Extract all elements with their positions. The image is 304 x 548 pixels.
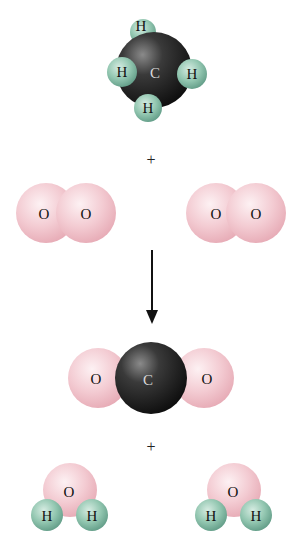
atom-label: H <box>143 100 154 116</box>
atom-label: H <box>117 64 128 80</box>
atom-label: O <box>81 206 92 222</box>
atom-label: H <box>87 508 98 524</box>
oxygen-molecule: O O <box>16 183 116 243</box>
atom-label: O <box>211 206 222 222</box>
plus-sign: + <box>146 438 155 455</box>
atom-label: O <box>39 206 50 222</box>
reaction-diagram: H H C H H + O O O O O C O + O H <box>0 0 304 548</box>
atom-label: H <box>187 66 198 82</box>
atom-label: O <box>91 371 102 387</box>
methane-molecule: H H C H H <box>107 18 207 122</box>
oxygen-molecule: O O <box>186 183 286 243</box>
atom-label: H <box>42 508 53 524</box>
water-molecule: O H H <box>31 463 108 531</box>
atom-label: H <box>136 18 147 34</box>
atom-label: H <box>206 508 217 524</box>
water-molecule: O H H <box>195 463 272 531</box>
reaction-arrow <box>146 250 158 324</box>
plus-sign: + <box>146 151 155 168</box>
atom-label: C <box>143 372 153 388</box>
atom-label: C <box>150 65 160 81</box>
atom-label: O <box>251 206 262 222</box>
atom-label: H <box>251 508 262 524</box>
atom-label: O <box>202 371 213 387</box>
carbon-dioxide-molecule: O C O <box>68 342 234 414</box>
atom-label: O <box>228 484 239 500</box>
atom-label: O <box>64 484 75 500</box>
